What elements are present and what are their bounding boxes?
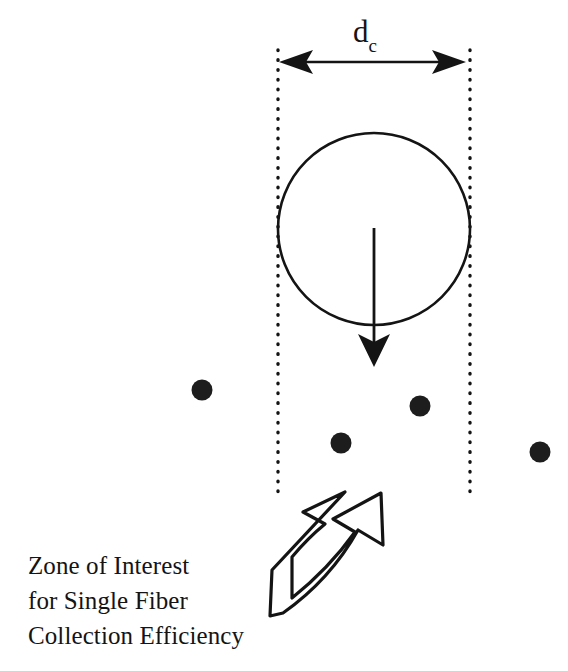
flow-direction-arrow — [358, 228, 390, 367]
particle-2 — [410, 396, 431, 417]
dimension-label-symbol: d — [353, 14, 369, 49]
caption-line-2: for Single Fiber — [28, 583, 328, 618]
caption-text-block: Zone of Interest for Single Fiber Collec… — [28, 548, 328, 653]
caption-line-3: Collection Efficiency — [28, 618, 328, 653]
particle-3 — [331, 433, 352, 454]
particle-4 — [530, 442, 551, 463]
dimension-label-subscript: c — [369, 35, 377, 56]
particle-group — [192, 380, 551, 463]
particle-1 — [192, 380, 213, 401]
figure-canvas: dc Zone of Interest for Single Fiber Col… — [0, 0, 568, 671]
dimension-label-dc: dc — [330, 14, 400, 54]
caption-line-1: Zone of Interest — [28, 548, 328, 583]
